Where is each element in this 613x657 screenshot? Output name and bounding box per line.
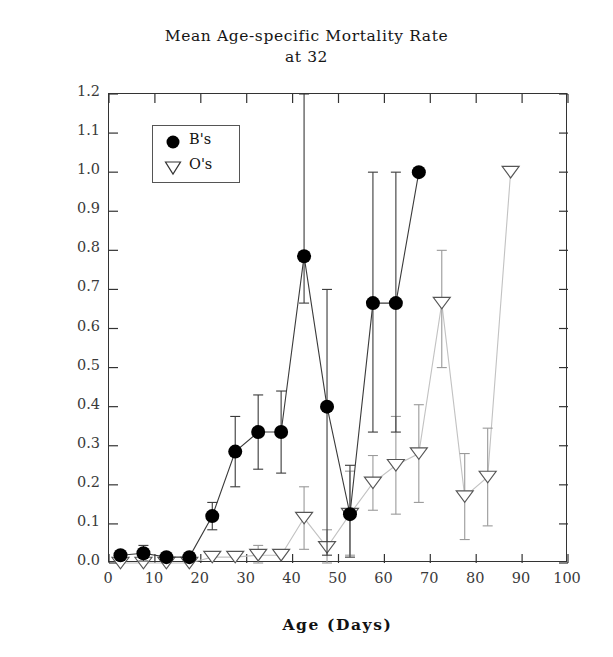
- data-point-open-triangle: [433, 297, 450, 309]
- y-tick-label: 0.5: [38, 357, 100, 373]
- x-tick-label: 30: [223, 570, 269, 586]
- x-axis-label: Age (Days): [108, 615, 567, 634]
- series-os: [112, 166, 519, 568]
- legend-box: B's O's: [152, 125, 240, 183]
- data-point-filled-circle: [389, 296, 403, 310]
- y-tick-label: 0.9: [38, 200, 100, 216]
- y-tick-label: 1.1: [38, 122, 100, 138]
- data-point-filled-circle: [159, 550, 173, 564]
- series-line: [120, 172, 510, 563]
- data-point-filled-circle: [343, 507, 357, 521]
- data-point-filled-circle: [113, 548, 127, 562]
- data-point-open-triangle: [456, 491, 473, 503]
- legend-label-os: O's: [189, 156, 212, 172]
- legend-item-bs: B's: [153, 128, 239, 154]
- data-point-filled-circle: [205, 509, 219, 523]
- y-tick-label: 0.7: [38, 278, 100, 294]
- y-tick-label: 1.0: [38, 161, 100, 177]
- open-triangle-down-icon: [161, 153, 185, 179]
- data-point-open-triangle: [502, 166, 519, 178]
- y-tick-label: 0.8: [38, 239, 100, 255]
- series-line: [120, 172, 418, 557]
- data-point-filled-circle: [182, 550, 196, 564]
- y-tick-label: 0.1: [38, 513, 100, 529]
- data-point-filled-circle: [412, 165, 426, 179]
- data-point-filled-circle: [297, 249, 311, 263]
- data-point-filled-circle: [251, 425, 265, 439]
- x-tick-label: 60: [360, 570, 406, 586]
- y-tick-label: 1.2: [38, 83, 100, 99]
- y-tick-label: 0.3: [38, 435, 100, 451]
- legend-item-os: O's: [153, 153, 239, 179]
- x-tick-label: 20: [177, 570, 223, 586]
- y-tick-label: 0.4: [38, 396, 100, 412]
- y-tick-label: 0.6: [38, 318, 100, 334]
- legend-label-bs: B's: [189, 131, 211, 147]
- x-tick-label: 40: [269, 570, 315, 586]
- data-point-filled-circle: [320, 400, 334, 414]
- data-point-open-triangle: [410, 448, 427, 460]
- x-tick-label: 80: [452, 570, 498, 586]
- data-point-filled-circle: [274, 425, 288, 439]
- x-tick-label: 90: [498, 570, 544, 586]
- chart-title-line2: at 32: [0, 47, 613, 68]
- data-point-filled-circle: [136, 546, 150, 560]
- y-tick-label: 0.2: [38, 474, 100, 490]
- data-point-open-triangle: [296, 512, 313, 524]
- chart-title: Mean Age-specific Mortality Rate at 32: [0, 26, 613, 68]
- chart-title-line1: Mean Age-specific Mortality Rate: [0, 26, 613, 47]
- chart-figure: Mean Age-specific Mortality Rate at 32 M…: [0, 0, 613, 657]
- data-point-open-triangle: [479, 471, 496, 483]
- y-tick-label: 0.0: [38, 552, 100, 568]
- filled-circle-icon: [161, 128, 185, 154]
- x-tick-label: 100: [544, 570, 590, 586]
- error-bar: [299, 94, 309, 303]
- data-point-filled-circle: [228, 445, 242, 459]
- x-tick-label: 10: [131, 570, 177, 586]
- x-tick-label: 50: [315, 570, 361, 586]
- data-point-filled-circle: [366, 296, 380, 310]
- x-tick-label: 0: [85, 570, 131, 586]
- data-point-open-triangle: [364, 477, 381, 489]
- x-tick-label: 70: [406, 570, 452, 586]
